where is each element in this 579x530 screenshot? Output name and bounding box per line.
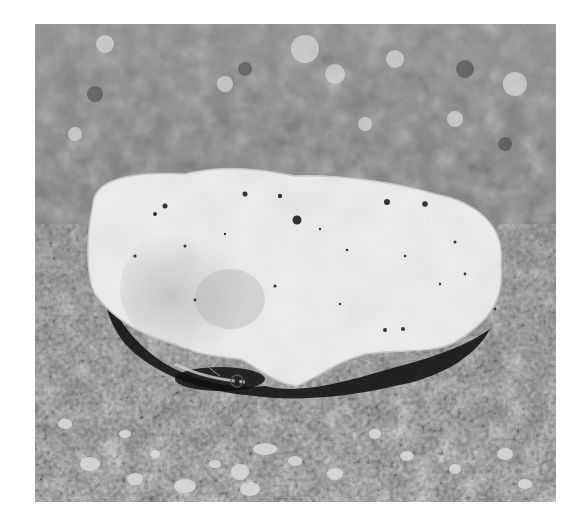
crab-on-sand-image: [35, 24, 556, 502]
photograph: [35, 24, 556, 502]
